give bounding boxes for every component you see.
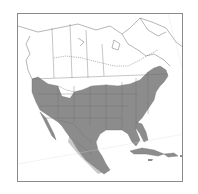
jamaica (148, 159, 153, 161)
range-limit-dotted-line (54, 50, 158, 66)
puerto-rico (180, 155, 183, 157)
hispaniola (164, 153, 178, 157)
north-america-map (18, 14, 183, 182)
cuba (130, 148, 164, 156)
range-map (17, 13, 183, 182)
